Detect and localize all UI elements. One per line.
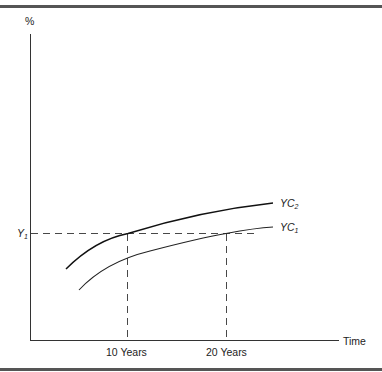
y-axis-label: % (25, 15, 34, 27)
yc2-label: YC2 (280, 197, 299, 210)
x-axis-label: Time (343, 335, 366, 347)
chart-canvas (0, 0, 382, 372)
yc1-label: YC1 (280, 221, 299, 234)
yc1-sub: 1 (295, 227, 299, 234)
yc2-main: YC (280, 197, 295, 209)
yc2-curve (66, 203, 273, 269)
y1-sub: 1 (24, 233, 28, 240)
yc1-curve (79, 227, 273, 290)
y1-main: Y (17, 227, 24, 239)
x20-tick-label: 20 Years (206, 346, 247, 358)
y1-tick-label: Y1 (17, 227, 28, 240)
yc1-main: YC (280, 221, 295, 233)
yc2-sub: 2 (295, 203, 299, 210)
x10-tick-label: 10 Years (106, 346, 147, 358)
